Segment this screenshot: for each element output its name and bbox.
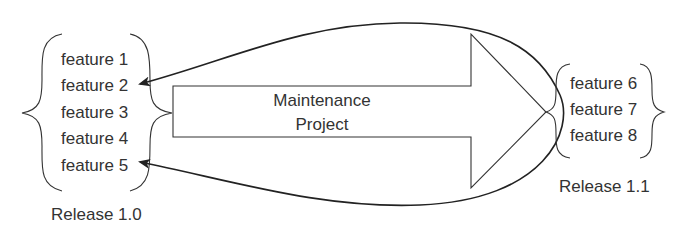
release-1-1-group: feature 6 feature 7 feature 8 Release 1.… xyxy=(546,64,664,196)
feature-3-label: feature 3 xyxy=(61,103,128,122)
feature-8-label: feature 8 xyxy=(570,126,637,145)
left-brace-open xyxy=(22,34,62,191)
feature-4-label: feature 4 xyxy=(61,129,128,148)
right-brace-close xyxy=(640,64,664,158)
project-label-line1: Maintenance xyxy=(273,91,370,110)
feedback-loop xyxy=(140,23,564,205)
right-brace-open xyxy=(546,64,570,158)
feature-1-label: feature 1 xyxy=(61,50,128,69)
feature-5-label: feature 5 xyxy=(61,156,128,175)
feature-6-label: feature 6 xyxy=(570,74,637,93)
feature-2-label: feature 2 xyxy=(61,76,128,95)
project-label-line2: Project xyxy=(296,115,349,134)
release-1-0-label: Release 1.0 xyxy=(51,205,142,224)
loop-upper-arrow xyxy=(140,23,560,95)
maintenance-diagram: feature 1 feature 2 feature 3 feature 4 … xyxy=(0,0,679,235)
feature-7-label: feature 7 xyxy=(570,100,637,119)
release-1-0-group: feature 1 feature 2 feature 3 feature 4 … xyxy=(22,34,172,224)
loop-lower-arrow xyxy=(140,95,564,205)
release-1-1-label: Release 1.1 xyxy=(559,177,650,196)
